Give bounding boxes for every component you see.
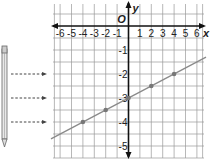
data-point xyxy=(172,72,177,77)
data-point xyxy=(126,96,131,101)
data-point xyxy=(81,120,86,125)
x-tick-label: -3 xyxy=(90,28,99,39)
coordinate-graph: -6-5-4-3-2-1123456-1-2-3-4-5xyO xyxy=(0,0,210,168)
x-tick-label: -1 xyxy=(113,28,122,39)
y-tick-label: -2 xyxy=(119,69,128,80)
x-tick-label: 3 xyxy=(160,28,166,39)
arrow-head-icon xyxy=(42,96,47,100)
data-point xyxy=(103,108,108,113)
pencil-tip-icon xyxy=(2,139,7,147)
x-tick-label: -2 xyxy=(101,28,110,39)
x-tick-label: -4 xyxy=(78,28,87,39)
x-tick-label: 2 xyxy=(149,28,155,39)
x-tick-label: 1 xyxy=(137,28,143,39)
x-tick-label: -5 xyxy=(67,28,76,39)
x-tick-label: -6 xyxy=(56,28,65,39)
x-tick-label: 6 xyxy=(194,28,200,39)
y-tick-label: -5 xyxy=(119,141,128,152)
data-point xyxy=(149,84,154,89)
y-tick-label: -1 xyxy=(119,45,128,56)
y-tick-label: -4 xyxy=(119,117,128,128)
y-axis-label: y xyxy=(132,2,140,14)
arrow-head-icon xyxy=(42,120,47,124)
pencil-eraser-icon xyxy=(2,46,7,53)
x-axis-label: x xyxy=(202,27,210,39)
x-tick-label: 5 xyxy=(183,28,189,39)
y-axis-up-arrow-icon xyxy=(126,1,132,8)
origin-label: O xyxy=(117,13,126,25)
arrow-head-icon xyxy=(42,72,47,76)
x-tick-label: 4 xyxy=(171,28,177,39)
